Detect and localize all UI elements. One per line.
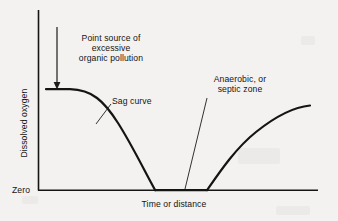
plot-area bbox=[0, 0, 338, 221]
y-axis-zero-label: Zero bbox=[12, 185, 30, 195]
anaerobic-leader-line bbox=[185, 98, 207, 189]
annotation-anaerobic-line1: Anaerobic, or bbox=[214, 74, 266, 84]
recovery-curve-path bbox=[207, 106, 310, 191]
annotation-point-source-line2: excessive bbox=[92, 43, 131, 53]
annotation-point-source-line1: Point source of bbox=[82, 33, 141, 43]
annotation-point-source: Point source of excessive organic pollut… bbox=[62, 33, 160, 64]
annotation-anaerobic-line2: septic zone bbox=[218, 84, 263, 94]
y-axis-label: Dissolved oxygen bbox=[19, 77, 29, 169]
annotation-sag-curve: Sag curve bbox=[112, 96, 152, 106]
x-axis-label: Time or distance bbox=[118, 199, 230, 209]
annotation-point-source-line3: organic pollution bbox=[79, 53, 143, 63]
sag-curve-leader-line bbox=[96, 104, 111, 124]
annotation-anaerobic-zone: Anaerobic, or septic zone bbox=[198, 74, 282, 94]
dissolved-oxygen-sag-curve-figure: Point source of excessive organic pollut… bbox=[0, 0, 338, 221]
